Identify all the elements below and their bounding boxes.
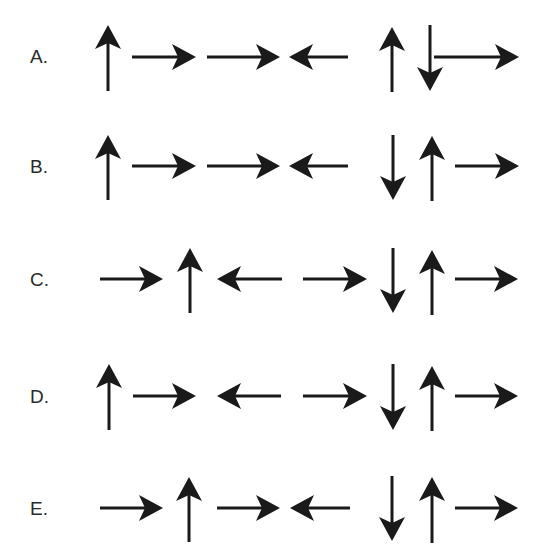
- option-e-label: E.: [30, 499, 48, 518]
- option-b-arrow-3-right-icon: [207, 153, 280, 179]
- option-d-arrow-6-up-icon: [419, 366, 445, 431]
- option-e-arrow-6-up-icon: [419, 477, 445, 543]
- option-b-arrow-4-left-icon: [289, 153, 348, 179]
- option-e-arrow-4-left-icon: [290, 495, 350, 521]
- option-a-arrow-1-up-icon: [95, 25, 121, 91]
- option-e-arrow-2-up-icon: [176, 477, 202, 542]
- option-e-arrow-3-right-icon: [217, 495, 280, 521]
- option-d-arrow-5-down-icon: [380, 364, 406, 430]
- option-b-arrow-6-up-icon: [419, 136, 445, 201]
- option-c-arrow-2-up-icon: [177, 248, 203, 313]
- option-d-arrow-2-right-icon: [133, 383, 196, 409]
- option-e-arrow-7-right-icon: [455, 495, 518, 521]
- option-c-arrow-3-left-icon: [217, 266, 282, 292]
- option-a-arrow-2-right-icon: [132, 44, 196, 70]
- option-c-arrow-5-down-icon: [380, 248, 406, 313]
- option-c-arrow-6-up-icon: [419, 250, 445, 315]
- option-c-arrow-4-right-icon: [303, 266, 367, 292]
- option-b-arrow-2-right-icon: [132, 153, 196, 179]
- option-c-arrow-7-right-icon: [455, 266, 518, 292]
- option-a-arrow-4-left-icon: [289, 44, 348, 70]
- option-a-arrow-7-right-icon: [434, 44, 519, 70]
- option-a-arrow-5-up-icon: [379, 27, 405, 92]
- option-d-arrow-7-right-icon: [455, 383, 518, 409]
- option-d-arrow-4-right-icon: [303, 383, 367, 409]
- option-c-arrow-1-right-icon: [100, 266, 163, 292]
- option-e-arrow-1-right-icon: [100, 495, 163, 521]
- option-e-arrow-5-down-icon: [379, 476, 405, 541]
- option-b-label: B.: [30, 157, 48, 176]
- option-d-arrow-3-left-icon: [217, 383, 281, 409]
- option-d-arrow-1-up-icon: [96, 364, 122, 430]
- option-c-label: C.: [30, 270, 49, 289]
- arrow-canvas: [0, 0, 547, 558]
- option-d-label: D.: [30, 387, 49, 406]
- option-b-arrow-7-right-icon: [455, 153, 519, 179]
- option-a-label: A.: [30, 47, 48, 66]
- option-b-arrow-5-down-icon: [380, 135, 406, 200]
- option-b-arrow-1-up-icon: [95, 135, 121, 200]
- option-a-arrow-3-right-icon: [207, 44, 280, 70]
